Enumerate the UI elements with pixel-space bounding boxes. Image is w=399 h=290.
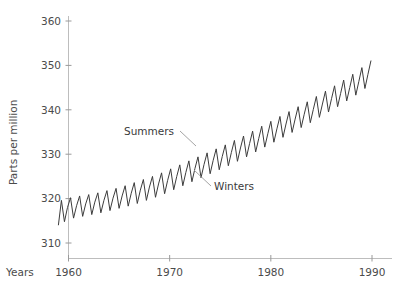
y-tick-label: 360: [41, 15, 61, 27]
y-axis-title: Parts per million: [7, 100, 19, 185]
x-tick-label: 1980: [257, 266, 284, 278]
x-tick-label: 1960: [55, 266, 82, 278]
y-tick-label: 320: [41, 192, 61, 204]
co2-series-line: [58, 61, 371, 226]
y-tick-label: 310: [41, 237, 61, 249]
summers-annotation-label: Summers: [124, 125, 174, 137]
chart-canvas: 310320330340350360 1960197019801990 Summ…: [0, 0, 399, 290]
keeling-curve-chart: 310320330340350360 1960197019801990 Summ…: [0, 0, 399, 290]
y-tick-label: 330: [41, 148, 61, 160]
y-tick-label: 340: [41, 104, 61, 116]
winters-annotation-label: Winters: [214, 180, 254, 192]
x-tick-label: 1990: [359, 266, 386, 278]
y-axis-tick-labels: 310320330340350360: [41, 15, 61, 249]
y-tick-label: 350: [41, 59, 61, 71]
summers-annotation-leader: [180, 131, 196, 146]
x-axis-title: Years: [5, 266, 34, 278]
x-axis-tick-labels: 1960197019801990: [55, 266, 385, 278]
x-tick-label: 1970: [156, 266, 183, 278]
